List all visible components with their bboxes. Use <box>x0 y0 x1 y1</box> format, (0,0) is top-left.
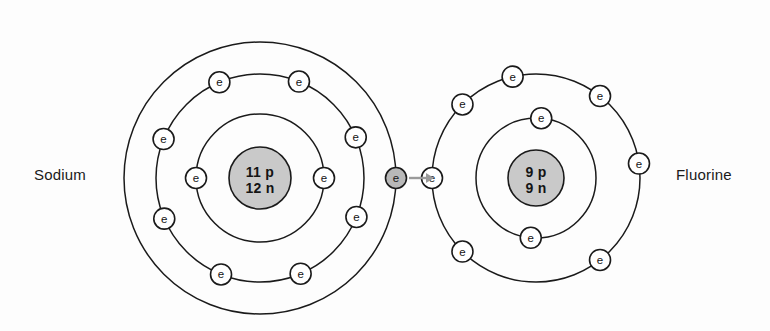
electron-sodium-s2-1: e <box>211 264 232 285</box>
figure-canvas: 11 p12 neeeeeeeeeee9 p9 neeeeeeeee Sodiu… <box>0 0 770 331</box>
electron-symbol: e <box>636 158 642 170</box>
electron-fluorine-s2-3: e <box>452 94 473 115</box>
electron-symbol: e <box>297 268 303 280</box>
electron-fluorine-s2-7: e <box>590 249 611 270</box>
electron-symbol: e <box>459 246 465 258</box>
electron-sodium-s1-1: e <box>186 168 207 189</box>
atom-label-fluorine: Fluorine <box>676 166 732 183</box>
electron-sodium-s1-2: e <box>314 168 335 189</box>
electron-symbol: e <box>160 133 166 145</box>
electron-symbol: e <box>161 213 167 225</box>
electron-sodium-s3-1: e <box>386 168 407 189</box>
electron-sodium-s2-3: e <box>153 129 174 150</box>
electron-fluorine-s2-5: e <box>590 86 611 107</box>
electron-symbol: e <box>528 232 534 244</box>
electron-symbol: e <box>459 98 465 110</box>
electron-sodium-s2-5: e <box>288 71 309 92</box>
electron-symbol: e <box>538 112 544 124</box>
electron-fluorine-s2-6: e <box>628 153 649 174</box>
electron-sodium-s2-2: e <box>154 208 175 229</box>
electron-sodium-s2-6: e <box>345 127 366 148</box>
electron-symbol: e <box>393 172 399 184</box>
electron-symbol: e <box>218 268 224 280</box>
electron-fluorine-s2-1: e <box>452 241 473 262</box>
electron-symbol: e <box>296 76 302 88</box>
electron-symbol: e <box>353 131 359 143</box>
atom-label-sodium: Sodium <box>34 166 86 183</box>
electron-fluorine-s1-2: e <box>531 108 552 129</box>
nucleus-protons-sodium: 11 p <box>246 164 274 180</box>
electron-sodium-s2-4: e <box>209 72 230 93</box>
atom-sodium: 11 p12 neeeeeeeeeee <box>124 42 407 314</box>
nucleus-neutrons-sodium: 12 n <box>245 180 274 196</box>
electron-symbol: e <box>193 172 199 184</box>
nucleus-protons-fluorine: 9 p <box>525 164 546 180</box>
electron-fluorine-s1-1: e <box>520 227 541 248</box>
electron-sodium-s2-7: e <box>346 206 367 227</box>
nucleus-neutrons-fluorine: 9 n <box>525 180 546 196</box>
electron-fluorine-s2-4: e <box>502 66 523 87</box>
atom-fluorine: 9 p9 neeeeeeeee <box>422 66 650 282</box>
electron-symbol: e <box>353 211 359 223</box>
electron-symbol: e <box>597 90 603 102</box>
electron-symbol: e <box>216 76 222 88</box>
electron-sodium-s2-8: e <box>290 263 311 284</box>
atomic-structure-diagram: 11 p12 neeeeeeeeeee9 p9 neeeeeeeee Sodiu… <box>0 0 770 331</box>
electron-symbol: e <box>509 71 515 83</box>
electron-symbol: e <box>597 254 603 266</box>
electron-symbol: e <box>321 172 327 184</box>
